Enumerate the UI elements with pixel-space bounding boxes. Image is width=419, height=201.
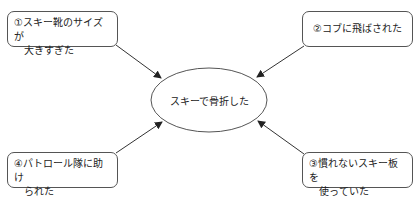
cause-2-line1: ②コブに飛ばされた	[313, 22, 402, 36]
arrow-1-to-center	[116, 45, 161, 78]
cause-4-line2: られた	[14, 185, 111, 199]
cause-4-line1: ④パトロール隊に助け	[14, 158, 103, 183]
cause-box-2: ②コブに飛ばされた	[302, 11, 413, 47]
arrow-2-to-center	[257, 46, 304, 77]
cause-box-4: ④パトロール隊に助け られた	[7, 152, 118, 188]
cause-3-line2: 使っていた	[309, 185, 406, 199]
cause-box-1: ①スキー靴のサイズが 大きすぎた	[7, 11, 118, 47]
cause-1-line1: ①スキー靴のサイズが	[14, 17, 103, 42]
arrow-4-to-center	[116, 122, 162, 153]
cause-1-line2: 大きすぎた	[14, 44, 111, 58]
cause-box-3: ③慣れないスキー板を 使っていた	[302, 152, 413, 188]
arrow-3-to-center	[258, 121, 304, 154]
cause-3-line1: ③慣れないスキー板を	[309, 158, 398, 183]
center-label: スキーで骨折した	[151, 93, 267, 108]
